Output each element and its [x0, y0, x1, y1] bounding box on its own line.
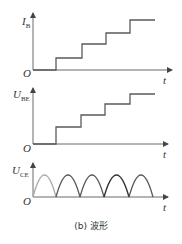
uce-hump-5 — [129, 175, 153, 197]
plot-ube: UBE O t — [13, 88, 168, 160]
plot-ib: IB O t — [21, 13, 172, 86]
figure-caption: (b) 波形 — [74, 220, 108, 231]
waveform-figure: IB O t UBE O t UCE O t (b) 波形 — [0, 0, 182, 244]
ib-staircase — [33, 20, 155, 70]
ube-staircase — [33, 94, 155, 144]
x-axis-label: t — [163, 148, 167, 160]
y-axis-label: UCE — [12, 164, 29, 179]
origin-label: O — [23, 67, 31, 79]
plot-uce: UCE O t — [12, 163, 168, 213]
y-axis-label: UBE — [13, 88, 30, 103]
uce-hump-4 — [104, 175, 129, 197]
x-axis-label: t — [163, 74, 167, 86]
origin-label: O — [23, 142, 31, 154]
uce-hump-3 — [80, 175, 104, 197]
uce-hump-2 — [56, 175, 80, 197]
uce-hump-1 — [33, 175, 56, 197]
origin-label: O — [23, 195, 31, 207]
y-axis-label: IB — [21, 15, 31, 30]
x-axis-label: t — [163, 201, 167, 213]
